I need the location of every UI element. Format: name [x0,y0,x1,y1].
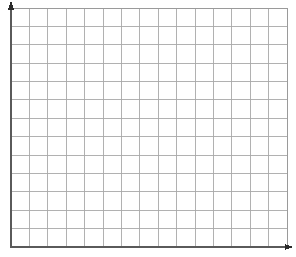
coordinate-grid-canvas: Empty graph-paper style coordinate plane… [0,0,296,257]
canvas-background [0,0,296,257]
graph-paper-svg [0,0,296,257]
